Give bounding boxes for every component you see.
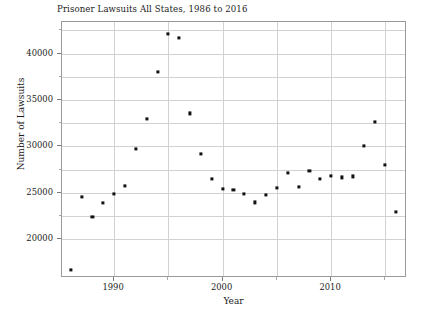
y-axis-tick bbox=[57, 99, 61, 100]
y-axis-tick-label: 20000 bbox=[26, 233, 53, 243]
data-point bbox=[188, 112, 191, 115]
data-point bbox=[123, 185, 126, 188]
plot-area bbox=[61, 21, 406, 277]
y-axis-tick-minor bbox=[59, 76, 62, 77]
data-point bbox=[102, 201, 105, 204]
y-axis-title: Number of Lawsuits bbox=[16, 54, 26, 194]
y-axis-tick-label: 25000 bbox=[26, 187, 53, 197]
gridline-vertical bbox=[168, 22, 169, 276]
gridline-vertical bbox=[223, 22, 224, 276]
y-axis-tick-label: 35000 bbox=[26, 94, 53, 104]
data-point bbox=[134, 147, 137, 150]
y-axis-tick-minor bbox=[59, 29, 62, 30]
data-point bbox=[351, 175, 354, 178]
data-point bbox=[199, 153, 202, 156]
x-axis-tick-minor bbox=[384, 277, 385, 280]
data-point bbox=[254, 201, 257, 204]
data-point bbox=[91, 216, 94, 219]
data-point bbox=[210, 178, 213, 181]
y-axis-tick bbox=[57, 53, 61, 54]
data-point bbox=[330, 174, 333, 177]
data-point bbox=[69, 269, 72, 272]
data-point bbox=[373, 121, 376, 124]
data-point bbox=[362, 144, 365, 147]
y-axis-tick-label: 30000 bbox=[26, 140, 53, 150]
gridline-vertical bbox=[277, 22, 278, 276]
data-point bbox=[145, 117, 148, 120]
x-axis-title: Year bbox=[61, 296, 406, 306]
data-point bbox=[178, 36, 181, 39]
data-point bbox=[167, 32, 170, 35]
data-point bbox=[308, 169, 311, 172]
y-axis-tick-minor bbox=[59, 215, 62, 216]
x-axis-tick-label: 2010 bbox=[319, 282, 340, 292]
x-axis-tick-minor bbox=[167, 277, 168, 280]
chart-figure: Prisoner Lawsuits All States, 1986 to 20… bbox=[0, 0, 425, 318]
data-point bbox=[297, 186, 300, 189]
gridline-vertical bbox=[331, 22, 332, 276]
data-point bbox=[384, 163, 387, 166]
y-axis-tick-labels: 2000025000300003500040000 bbox=[0, 0, 53, 318]
data-point bbox=[286, 171, 289, 174]
data-point bbox=[340, 176, 343, 179]
data-point bbox=[221, 187, 224, 190]
page-title: Prisoner Lawsuits All States, 1986 to 20… bbox=[57, 4, 248, 14]
x-axis-tick bbox=[330, 277, 331, 281]
data-point bbox=[232, 188, 235, 191]
data-point bbox=[264, 193, 267, 196]
y-axis-tick bbox=[57, 145, 61, 146]
data-point bbox=[156, 71, 159, 74]
gridline-vertical bbox=[114, 22, 115, 276]
data-point bbox=[243, 193, 246, 196]
y-axis-tick-minor bbox=[59, 169, 62, 170]
y-axis-tick-minor bbox=[59, 122, 62, 123]
data-point bbox=[80, 195, 83, 198]
y-axis-tick-label: 40000 bbox=[26, 48, 53, 58]
data-point bbox=[319, 178, 322, 181]
x-axis-tick bbox=[222, 277, 223, 281]
y-axis-tick bbox=[57, 238, 61, 239]
data-point bbox=[113, 192, 116, 195]
x-axis-tick bbox=[113, 277, 114, 281]
x-axis-tick-minor bbox=[276, 277, 277, 280]
y-axis-tick bbox=[57, 192, 61, 193]
data-point bbox=[275, 186, 278, 189]
x-axis-tick-label: 1990 bbox=[102, 282, 123, 292]
data-point bbox=[395, 211, 398, 214]
gridline-vertical bbox=[385, 22, 386, 276]
x-axis-tick-label: 2000 bbox=[211, 282, 232, 292]
